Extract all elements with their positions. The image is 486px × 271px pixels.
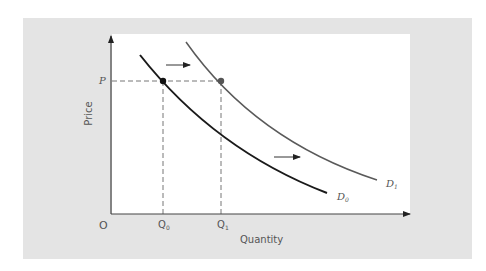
point-d0 (160, 78, 166, 84)
q0-sub: 0 (166, 224, 170, 231)
d1-main: D (386, 178, 394, 189)
guide-lines (112, 81, 221, 214)
d0-label: D0 (337, 192, 349, 203)
d1-label: D1 (386, 179, 398, 190)
demand-curve-d0 (140, 55, 327, 193)
y-axis-label: Price (83, 98, 94, 130)
demand-shift-chart (0, 0, 486, 271)
q1-sub: 1 (225, 224, 229, 231)
x-axis-label: Quantity (240, 235, 283, 245)
q1-main: Q (217, 219, 225, 230)
price-tick-label: P (99, 76, 106, 86)
q0-main: Q (158, 219, 166, 230)
point-d1 (218, 78, 224, 84)
d0-sub: 0 (345, 196, 349, 203)
q0-tick-label: Q0 (158, 220, 170, 231)
origin-label: O (99, 220, 108, 231)
d0-main: D (337, 191, 345, 202)
demand-curve-d1 (186, 42, 377, 180)
d1-sub: 1 (394, 183, 398, 190)
q1-tick-label: Q1 (217, 220, 229, 231)
